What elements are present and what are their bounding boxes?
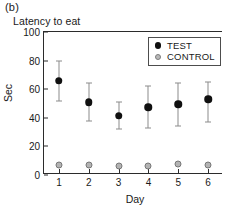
data-point-test-day-6 xyxy=(204,95,212,103)
y-tick-mark xyxy=(44,60,48,61)
x-tick-label: 2 xyxy=(86,177,92,188)
error-bar-cap xyxy=(175,83,181,84)
error-bar-cap xyxy=(116,129,122,130)
y-tick-label: 100 xyxy=(10,27,40,38)
error-bar-cap xyxy=(205,82,211,83)
y-tick-mark xyxy=(44,89,48,90)
error-bar-cap xyxy=(175,125,181,126)
y-tick-label: 40 xyxy=(10,112,40,123)
legend-item-test: TEST xyxy=(153,40,215,51)
y-tick-mark xyxy=(44,32,48,33)
page-title: Latency to eat xyxy=(13,15,80,27)
x-tick-mark xyxy=(59,169,60,173)
error-bar-cap xyxy=(205,122,211,123)
x-tick-mark xyxy=(148,169,149,173)
x-tick-mark xyxy=(178,169,179,173)
data-point-test-day-4 xyxy=(145,103,153,111)
filled-circle-icon xyxy=(155,42,162,49)
error-bar-cap xyxy=(56,100,62,101)
legend: TESTCONTROL xyxy=(148,37,221,66)
data-point-control-day-2 xyxy=(85,161,92,168)
legend-marker-icon xyxy=(153,54,163,60)
x-tick-mark xyxy=(119,169,120,173)
data-point-test-day-3 xyxy=(115,112,123,120)
panel-label: (b) xyxy=(5,1,19,13)
error-bar-cap xyxy=(145,127,151,128)
error-bar-cap xyxy=(86,83,92,84)
error-bar-cap xyxy=(145,86,151,87)
data-point-control-day-5 xyxy=(175,160,182,167)
x-tick-label: 3 xyxy=(116,177,122,188)
data-point-test-day-5 xyxy=(175,100,183,108)
x-tick-label: 1 xyxy=(56,177,62,188)
y-tick-label: 80 xyxy=(10,55,40,66)
x-tick-mark xyxy=(89,169,90,173)
error-bar-cap xyxy=(56,60,62,61)
x-tick-label: 5 xyxy=(175,177,181,188)
x-tick-mark xyxy=(208,169,209,173)
data-point-test-day-2 xyxy=(85,98,93,106)
data-point-test-day-1 xyxy=(55,77,63,85)
data-point-control-day-4 xyxy=(145,162,152,169)
legend-item-control: CONTROL xyxy=(153,51,215,62)
error-bar-cap xyxy=(86,120,92,121)
data-point-control-day-1 xyxy=(55,161,62,168)
y-tick-label: 20 xyxy=(10,141,40,152)
data-point-control-day-3 xyxy=(115,162,122,169)
y-tick-mark xyxy=(44,175,48,176)
y-tick-label: 0 xyxy=(10,170,40,181)
y-tick-mark xyxy=(44,117,48,118)
y-tick-mark xyxy=(44,146,48,147)
legend-label: TEST xyxy=(167,40,192,51)
error-bar-cap xyxy=(116,102,122,103)
legend-label: CONTROL xyxy=(167,51,215,62)
x-tick-label: 6 xyxy=(205,177,211,188)
data-point-control-day-6 xyxy=(205,161,212,168)
x-axis-label: Day xyxy=(0,193,230,205)
legend-marker-icon xyxy=(153,42,163,49)
y-tick-label: 60 xyxy=(10,84,40,95)
x-tick-label: 4 xyxy=(146,177,152,188)
open-circle-icon xyxy=(155,54,161,60)
